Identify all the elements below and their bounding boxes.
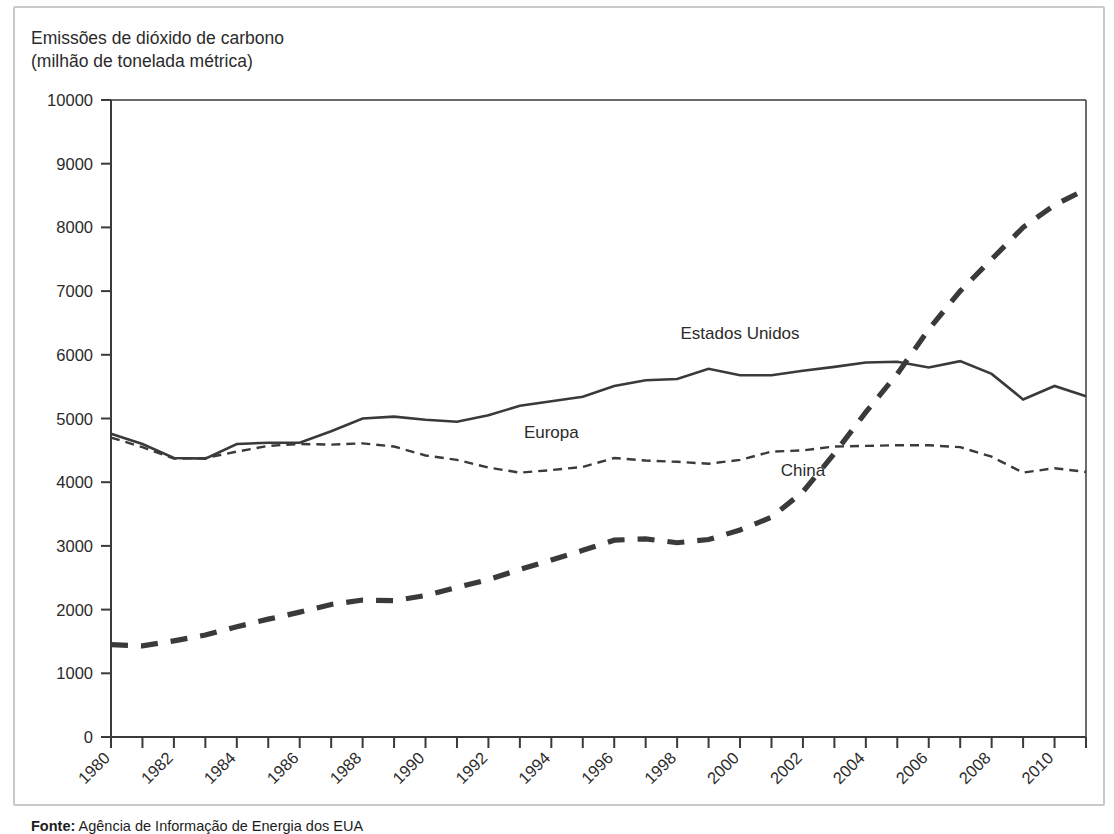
source-text: Agência de Informação de Energia dos EUA [75, 818, 363, 834]
chart-series [111, 189, 1086, 646]
y-axis-ticks: 0100020003000400050006000700080009000100… [47, 91, 111, 746]
source-note: Fonte: Agência de Informação de Energia … [31, 818, 363, 834]
source-label: Fonte: [31, 818, 75, 834]
x-axis-tick-label: 2004 [829, 748, 868, 787]
y-axis-tick-label: 10000 [47, 91, 93, 109]
y-axis-tick-label: 8000 [56, 218, 93, 236]
x-axis-tick-label: 1990 [389, 748, 428, 787]
y-axis-tick-label: 7000 [56, 282, 93, 300]
x-axis-tick-label: 1996 [578, 748, 617, 787]
x-axis-tick-label: 1984 [200, 748, 239, 787]
y-axis-tick-label: 5000 [56, 410, 93, 428]
y-axis-tick-label: 9000 [56, 155, 93, 173]
series-label-europa: Europa [524, 423, 579, 442]
x-axis-tick-label: 2006 [892, 748, 931, 787]
x-axis-tick-label: 2008 [955, 748, 994, 787]
x-axis-tick-label: 2002 [766, 748, 805, 787]
x-axis-tick-label: 1992 [452, 748, 491, 787]
x-axis-tick-label: 1988 [326, 748, 365, 787]
chart-series-labels: Estados UnidosEuropaChina [524, 324, 826, 480]
series-line-china [111, 189, 1086, 646]
series-label-estados-unidos: Estados Unidos [680, 324, 799, 343]
y-axis-tick-label: 0 [84, 728, 93, 746]
x-axis-tick-label: 1986 [263, 748, 302, 787]
y-axis-tick-label: 2000 [56, 601, 93, 619]
y-axis-tick-label: 4000 [56, 473, 93, 491]
series-label-china: China [781, 461, 826, 480]
x-axis-tick-label: 1994 [515, 748, 554, 787]
x-axis-tick-label: 1980 [74, 748, 113, 787]
chart-axes [111, 100, 1086, 737]
y-axis-tick-label: 6000 [56, 346, 93, 364]
y-axis-tick-label: 3000 [56, 537, 93, 555]
x-axis-tick-label: 1998 [641, 748, 680, 787]
x-axis-tick-label: 2000 [703, 748, 742, 787]
x-axis-ticks: 1980198219841986198819901992199419961998… [74, 737, 1086, 787]
y-axis-tick-label: 1000 [56, 664, 93, 682]
series-line-estados-unidos [111, 361, 1086, 458]
x-axis-tick-label: 2010 [1018, 748, 1057, 787]
x-axis-tick-label: 1982 [137, 748, 176, 787]
